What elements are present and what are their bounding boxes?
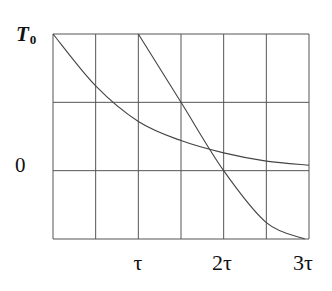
y-tick-label-T0: T0 (16, 22, 36, 47)
y-tick-label-zero: 0 (15, 153, 26, 177)
x-tick-label-2tau: 2τ (212, 250, 232, 275)
delayed-response-curve (138, 34, 304, 239)
grid (53, 34, 309, 239)
x-tick-label-3tau: 3τ (293, 250, 313, 275)
chart: T0 0 τ 2τ 3τ (0, 0, 332, 291)
x-tick-label-tau: τ (134, 250, 143, 275)
